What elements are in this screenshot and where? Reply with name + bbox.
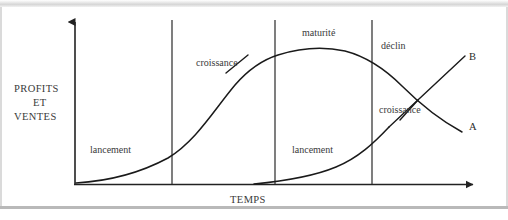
phase-label-lancement-1: lancement	[90, 144, 131, 155]
phase-label-lancement-2: lancement	[292, 144, 333, 155]
curve-tag-a: A	[469, 121, 477, 132]
phase-label-declin: déclin	[381, 40, 405, 51]
curve-b-ray	[389, 56, 465, 127]
y-axis-label-line-3: VENTES	[14, 111, 57, 122]
y-axis-label-line-2: ET	[33, 97, 47, 108]
x-axis-label: TEMPS	[230, 194, 266, 205]
lifecycle-diagram: PROFITS ET VENTES TEMPS lancement croiss…	[0, 0, 508, 220]
curve-b-path	[254, 127, 389, 184]
phase-label-croissance-2: croissance	[379, 104, 421, 115]
product-lifecycle-figure: PROFITS ET VENTES TEMPS lancement croiss…	[0, 0, 508, 220]
phase-label-croissance-1: croissance	[196, 57, 238, 68]
curve-tag-b: B	[469, 51, 476, 62]
phase-label-maturite: maturité	[302, 27, 336, 38]
y-axis-label-line-1: PROFITS	[14, 83, 59, 94]
